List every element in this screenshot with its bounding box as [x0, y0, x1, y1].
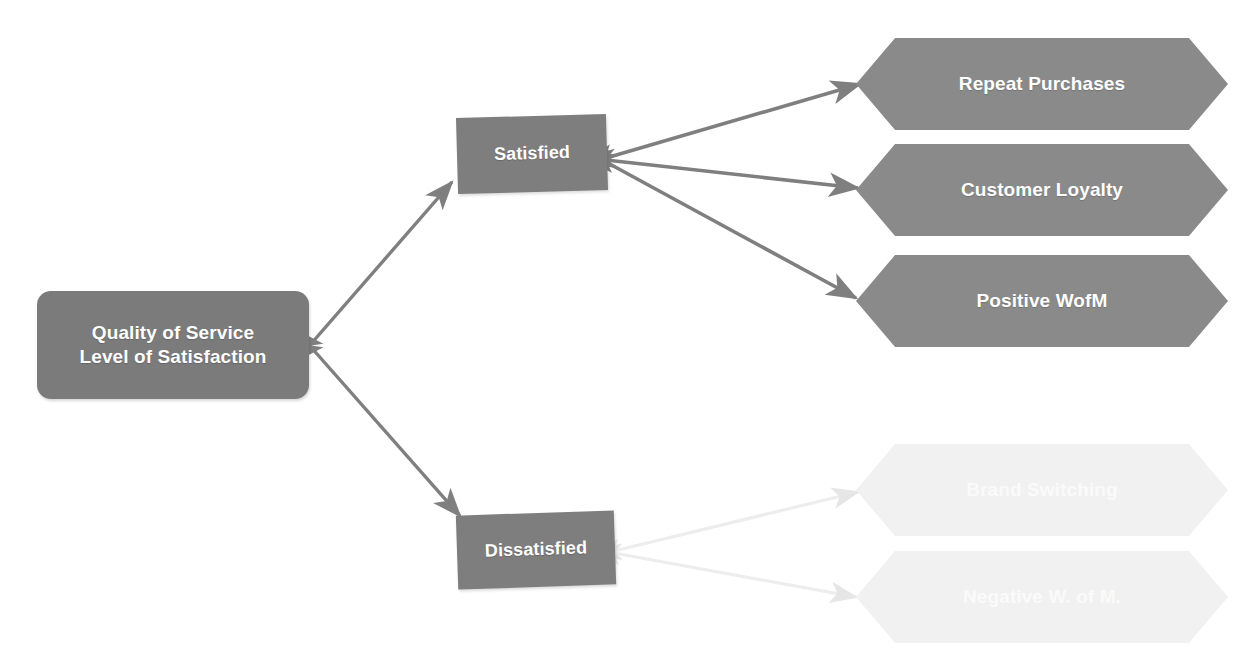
node-negative-w-of-m-label: Negative W. of M.: [949, 586, 1135, 608]
node-customer-loyalty-label: Customer Loyalty: [947, 179, 1137, 201]
connector-satisfied-to-repeat-purchases: [606, 84, 860, 158]
node-repeat-purchases[interactable]: Repeat Purchases: [856, 38, 1228, 130]
node-quality-of-service[interactable]: Quality of Service Level of Satisfaction: [37, 291, 309, 399]
node-repeat-purchases-label: Repeat Purchases: [945, 73, 1139, 95]
root-node-label: Quality of Service Level of Satisfaction: [72, 321, 275, 370]
node-dissatisfied[interactable]: Dissatisfied: [456, 510, 616, 589]
node-customer-loyalty[interactable]: Customer Loyalty: [856, 144, 1228, 236]
root-node-label-line1: Quality of Service: [80, 321, 267, 345]
root-node-label-line2: Level of Satisfaction: [80, 345, 267, 369]
node-negative-w-of-m[interactable]: Negative W. of M.: [856, 551, 1228, 643]
node-brand-switching-label: Brand Switching: [952, 479, 1131, 501]
node-dissatisfied-label: Dissatisfied: [477, 537, 596, 564]
node-satisfied[interactable]: Satisfied: [456, 114, 608, 194]
node-positive-wofm-label: Positive WofM: [963, 290, 1122, 312]
node-brand-switching[interactable]: Brand Switching: [856, 444, 1228, 536]
connector-dissatisfied-to-brand-switching: [614, 492, 858, 551]
node-satisfied-label: Satisfied: [486, 141, 579, 167]
diagram-canvas: Quality of Service Level of Satisfaction…: [0, 0, 1250, 663]
connector-dissatisfied-to-negative-w-of-m: [614, 553, 856, 597]
connector-root-to-dissatisfied: [310, 346, 460, 516]
connector-root-to-satisfied: [310, 182, 452, 345]
node-positive-wofm[interactable]: Positive WofM: [856, 255, 1228, 347]
